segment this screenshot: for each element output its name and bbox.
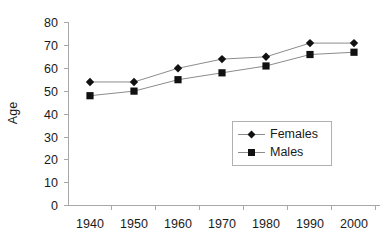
y-tick-label: 60 — [44, 62, 58, 76]
data-point-square — [262, 62, 269, 69]
data-point-diamond — [306, 39, 314, 47]
y-axis-ticks — [64, 23, 69, 206]
y-tick-label: 40 — [44, 108, 58, 122]
square-marker-icon — [248, 149, 255, 156]
x-tick-label: 1990 — [296, 217, 324, 231]
y-axis-title: Age — [6, 102, 20, 124]
legend: Females Males — [233, 122, 332, 166]
x-tick-label: 1950 — [120, 217, 148, 231]
data-point-diamond — [174, 64, 182, 72]
x-tick-label: 1980 — [252, 217, 280, 231]
line-chart: 80 70 60 50 40 30 20 10 0 Age 1940 1950 … — [0, 0, 386, 244]
series-markers-females — [86, 39, 358, 86]
y-tick-label: 0 — [51, 199, 58, 213]
data-point-diamond — [86, 78, 94, 86]
x-tick-label: 1960 — [164, 217, 192, 231]
y-tick-label: 10 — [44, 176, 58, 190]
chart-canvas: 80 70 60 50 40 30 20 10 0 Age 1940 1950 … — [0, 0, 386, 244]
x-axis-tick-labels: 1940 1950 1960 1970 1980 1990 2000 — [76, 217, 368, 231]
data-point-square — [218, 69, 225, 76]
y-tick-label: 70 — [44, 39, 58, 53]
data-point-diamond — [130, 78, 138, 86]
x-axis-ticks — [112, 206, 376, 211]
y-axis-tick-labels: 80 70 60 50 40 30 20 10 0 — [44, 16, 58, 213]
y-tick-label: 20 — [44, 153, 58, 167]
data-point-square — [174, 76, 181, 83]
x-tick-label: 1940 — [76, 217, 104, 231]
x-tick-label: 2000 — [340, 217, 368, 231]
y-tick-label: 30 — [44, 131, 58, 145]
data-point-square — [130, 88, 137, 95]
y-tick-label: 80 — [44, 16, 58, 30]
y-tick-label: 50 — [44, 85, 58, 99]
data-point-square — [350, 49, 357, 56]
data-point-diamond — [218, 55, 226, 63]
legend-label-males: Males — [270, 145, 303, 159]
data-point-diamond — [350, 39, 358, 47]
legend-label-females: Females — [270, 127, 318, 141]
data-point-square — [86, 92, 93, 99]
data-point-diamond — [262, 53, 270, 61]
x-tick-label: 1970 — [208, 217, 236, 231]
data-point-square — [306, 51, 313, 58]
